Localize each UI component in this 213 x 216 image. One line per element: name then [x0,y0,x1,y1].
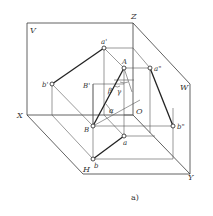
label-A: A [121,58,127,66]
point-b-prime [50,82,54,86]
label-V: V [30,26,37,35]
point-A [122,66,126,70]
label-Z: Z [130,12,137,21]
point-b [91,157,95,161]
labels: V Z W X O H Y a' b' A a" B' β γ α B a b … [16,12,194,202]
label-B-prime: B' [82,82,90,90]
label-a: a [123,139,127,147]
label-Y: Y [188,173,194,182]
label-alpha: α [109,107,114,115]
label-O: O [136,107,143,116]
v-plane [27,23,133,115]
point-b-double-prime [171,124,175,128]
point-a-prime [102,46,106,50]
label-X: X [16,111,23,120]
point-a [122,134,126,138]
label-b-double-prime: b" [177,123,185,131]
line-a-prime-b-prime [52,48,104,84]
label-H: H [82,165,91,174]
point-a-double-prime [148,66,152,70]
label-beta: β [107,87,112,95]
h-plane [27,115,190,174]
label-a-double-prime: a" [154,65,161,73]
point-B [91,124,95,128]
line-ab [93,136,124,159]
label-W: W [180,83,189,92]
label-gamma: γ [117,88,122,96]
label-a-prime: a' [101,38,107,46]
label-b-prime: b' [42,81,48,89]
figure-caption: a) [131,193,139,202]
line-a-double-prime-b-double-prime [150,68,173,126]
projection-diagram: V Z W X O H Y a' b' A a" B' β γ α B a b … [0,0,213,216]
label-b: b [94,162,99,170]
label-B: B [83,126,89,134]
